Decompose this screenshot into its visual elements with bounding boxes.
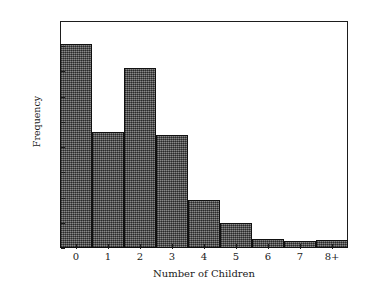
x-axis-tick-mark	[204, 244, 205, 249]
bar	[92, 132, 124, 248]
bar-slot	[156, 21, 188, 248]
x-axis-tick-label: 8+	[312, 252, 352, 262]
bar	[188, 200, 220, 248]
bar-slot	[92, 21, 124, 248]
y-axis-tick-mark	[61, 122, 65, 123]
y-axis-tick-mark	[61, 172, 65, 173]
bar	[124, 68, 156, 248]
bar-slot	[60, 21, 92, 248]
y-axis-tick-mark	[61, 198, 65, 199]
bar-slot	[124, 21, 156, 248]
x-axis-tick-mark	[140, 244, 141, 249]
y-axis-tick-mark	[61, 147, 65, 148]
x-axis-tick-mark	[172, 244, 173, 249]
x-axis-title: Number of Children	[60, 268, 348, 279]
y-axis-tick-mark	[61, 21, 65, 22]
x-axis-tick-mark	[108, 244, 109, 249]
bar	[156, 135, 188, 249]
y-axis-tick-mark	[61, 223, 65, 224]
y-axis-tick-mark	[61, 97, 65, 98]
x-axis-tick-mark	[268, 244, 269, 249]
x-axis-tick-mark	[76, 244, 77, 249]
x-axis-tick-mark	[332, 244, 333, 249]
x-axis-tick-mark	[236, 244, 237, 249]
bar-slot	[252, 21, 284, 248]
bar	[60, 44, 92, 248]
bars-layer	[60, 21, 348, 248]
bar-slot	[284, 21, 316, 248]
y-axis-tick-mark	[61, 71, 65, 72]
bar-chart: Frequency Number of Children 01002003004…	[0, 0, 368, 294]
bar-slot	[188, 21, 220, 248]
x-axis-tick-mark	[300, 244, 301, 249]
y-axis-tick-mark	[61, 46, 65, 47]
y-axis-title: Frequency	[31, 62, 42, 182]
bar-slot	[220, 21, 252, 248]
y-axis-tick-mark	[61, 248, 65, 249]
bar-slot	[316, 21, 348, 248]
